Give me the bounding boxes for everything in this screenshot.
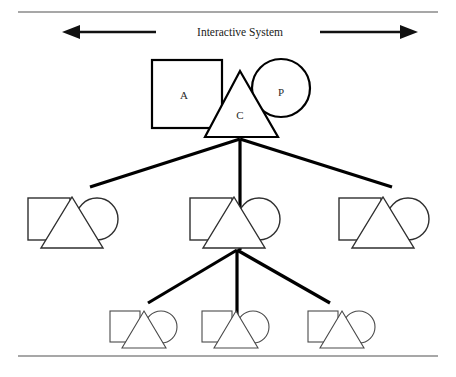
- root-square-label: A: [180, 89, 188, 101]
- right-arrow-head: [400, 25, 418, 39]
- left-arrow-head: [62, 25, 80, 39]
- node-leaf-right: [308, 311, 375, 348]
- node-leaf-center: [202, 311, 269, 348]
- root-circle-label: P: [278, 86, 284, 98]
- connector-mid-to-leaf-left: [148, 250, 237, 303]
- connector-root-to-mid-left: [90, 139, 240, 187]
- node-mid-left: [28, 197, 118, 248]
- node-mid-center: [190, 197, 280, 248]
- connector-root-to-mid-right: [240, 139, 392, 187]
- figure-container: Interactive System A P C: [0, 0, 456, 377]
- node-root: A P C: [152, 59, 310, 137]
- root-triangle-label: C: [236, 109, 243, 121]
- node-mid-right: [339, 197, 429, 248]
- connector-mid-to-leaf-right: [237, 250, 330, 303]
- diagram-canvas: Interactive System A P C: [0, 0, 456, 377]
- right-arrow: [320, 25, 418, 39]
- figure-caption: Interactive System: [197, 26, 283, 39]
- node-leaf-left: [110, 311, 177, 348]
- left-arrow: [62, 25, 156, 39]
